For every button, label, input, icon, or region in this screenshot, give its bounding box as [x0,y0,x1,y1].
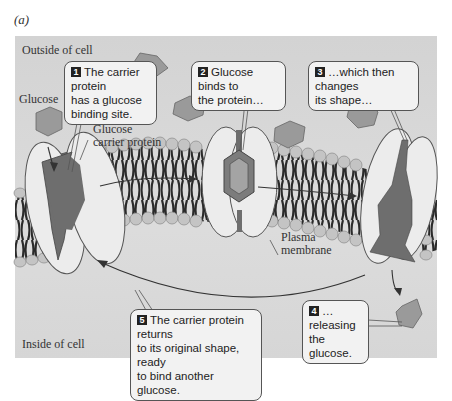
arrow-return-cycle [100,262,365,297]
step-number-badge: 4 [309,306,319,316]
carrier-protein-label: Glucose carrier protein [93,123,161,149]
inside-of-cell-label: Inside of cell [22,337,85,352]
callout-step-2: 2Glucose binds to the protein… [191,61,286,111]
step-number-badge: 3 [315,67,325,77]
glucose-label: Glucose [19,93,58,106]
outside-of-cell-label: Outside of cell [22,43,93,58]
callout-step-1: 1The carrier protein has a glucose bindi… [64,61,157,125]
callout-step-4: 4… releasing the glucose. [302,300,369,364]
glucose-molecule [36,107,62,136]
callout-step-3: 3…which then changes its shape… [308,61,419,111]
step-number-badge: 1 [71,67,81,77]
carrier-protein-bound [202,127,277,237]
plasma-membrane-label: Plasma membrane [281,231,332,257]
step-number-badge: 2 [198,67,208,77]
step-number-badge: 5 [137,315,147,325]
glucose-molecule-released [396,299,422,328]
callout-step-5: 5The carrier protein returns to its orig… [130,309,262,401]
glucose-molecule [274,121,305,148]
